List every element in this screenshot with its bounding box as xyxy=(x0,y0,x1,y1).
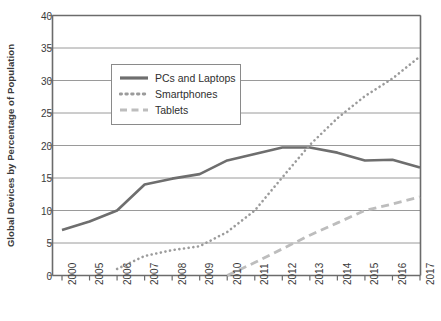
line-chart: Global Devices by Percentage of Populati… xyxy=(0,0,441,321)
legend-item-tablets[interactable]: Tablets xyxy=(119,102,233,118)
dashed-line-swatch-icon xyxy=(119,104,149,116)
legend-label: Tablets xyxy=(155,104,188,116)
solid-line-swatch-icon xyxy=(119,72,149,84)
legend-label: PCs and Laptops xyxy=(155,72,236,84)
gridlines xyxy=(53,16,421,244)
legend-item-smartphones[interactable]: Smartphones xyxy=(119,86,233,102)
dotted-line-swatch-icon xyxy=(119,88,149,100)
series-line-pcs-and-laptops xyxy=(62,147,420,230)
legend-label: Smartphones xyxy=(155,88,217,100)
legend-item-pcs-and-laptops[interactable]: PCs and Laptops xyxy=(119,70,233,86)
chart-legend: PCs and Laptops Smartphones Tablets xyxy=(111,64,241,125)
plot-area xyxy=(0,0,441,321)
